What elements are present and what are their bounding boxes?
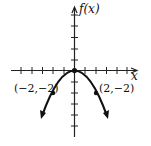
- x-axis-label: x: [131, 70, 138, 82]
- point-right-label: (2,−2): [99, 83, 134, 94]
- point-left-label: (−2,−2): [14, 83, 59, 94]
- parabola-graph: [0, 0, 151, 146]
- y-axis-label: f(x): [79, 3, 100, 15]
- point-origin: [72, 68, 77, 73]
- point-right: [94, 91, 98, 95]
